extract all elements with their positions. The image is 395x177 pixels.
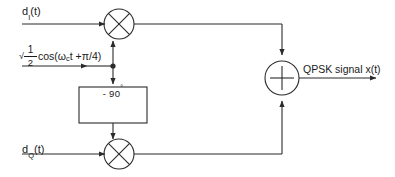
label-in-phase-input: dI(t) [22,6,41,20]
label-carrier-expression: √ 1 2 cos(ωct + π/4) [19,45,101,68]
in-phase-subscript: I [28,13,30,22]
carrier-radical: √ [19,52,24,61]
carrier-omega-subscript: c [66,55,70,63]
carrier-time-term: t + [70,51,82,62]
qpsk-modulator-diagram: dI(t) dQ(t) √ 1 2 cos(ωct + π/4) - 90° Q… [0,0,395,177]
label-output-signal: QPSK signal x(t) [303,64,381,75]
junction-dot-carrier [110,63,115,68]
phase-shifter-label-wrap: - 90° [79,87,147,123]
label-quadrature-input: dQ(t) [22,144,44,158]
carrier-numerator: 1 [28,45,34,56]
quadrature-suffix: (t) [34,143,44,155]
carrier-phase-term: π/4) [82,51,102,62]
carrier-denominator: 2 [28,57,33,68]
phase-shifter-label: - 90° [79,87,147,99]
in-phase-suffix: (t) [30,5,40,17]
phase-shifter-value: - 90 [103,88,121,99]
quadrature-subscript: Q [28,151,34,160]
carrier-function: cos( [38,51,58,62]
degree-symbol: ° [120,84,123,91]
carrier-fraction: √ 1 2 [19,45,37,68]
diagram-canvas [0,0,395,177]
carrier-omega: ω [58,51,66,62]
